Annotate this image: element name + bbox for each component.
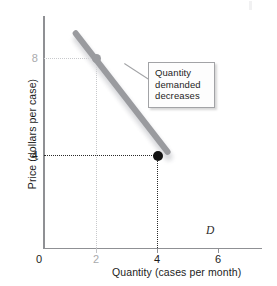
annotation-line-2: demanded	[155, 79, 209, 91]
chart-figure: D Quantity demanded decreases 8 4 0 2 4 …	[0, 0, 277, 286]
y-axis-title: Price (dollars per case)	[26, 54, 38, 214]
annotation-box: Quantity demanded decreases	[148, 62, 215, 108]
x-axis-title: Quantity (cases per month)	[112, 266, 241, 278]
annotation-line-3: decreases	[155, 90, 209, 102]
data-point-initial	[92, 54, 101, 63]
demand-curve-label: D	[206, 224, 214, 236]
data-point-new	[153, 151, 163, 161]
x-tick-label-6: 6	[215, 253, 221, 265]
guideline-quantity-4	[157, 155, 158, 248]
y-axis-line	[43, 16, 45, 249]
x-axis-line	[43, 248, 262, 250]
x-tick-label-4: 4	[154, 253, 160, 265]
annotation-line-1: Quantity	[155, 67, 209, 79]
guideline-price-4	[44, 155, 158, 156]
x-tick-label-2: 2	[93, 253, 99, 265]
x-tick-label-0: 0	[36, 253, 42, 265]
scan-artifact	[249, 1, 252, 10]
guideline-quantity-2	[96, 58, 97, 248]
